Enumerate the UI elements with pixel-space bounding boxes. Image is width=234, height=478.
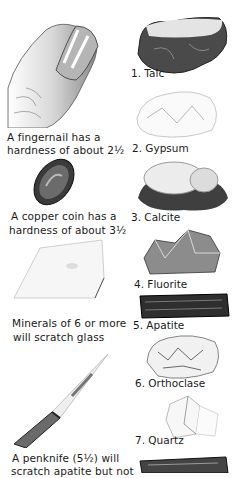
glass-pane-illustration <box>10 238 105 304</box>
penknife-illustration <box>12 352 108 448</box>
calcite-illustration <box>134 158 229 213</box>
glass-caption-line1: Minerals of 6 or more <box>12 317 126 330</box>
penknife-caption-line1: A penknife (5½) will <box>12 452 119 465</box>
orthoclase-illustration <box>143 332 223 380</box>
fingernail-caption-line1: A fingernail has a <box>7 131 100 144</box>
coin-caption-line2: hardness of about 3½ <box>9 224 126 237</box>
mineral-label-gypsum: 2. Gypsum <box>132 142 189 154</box>
mineral-label-apatite: 5. Apatite <box>133 319 184 331</box>
coin-caption-line1: A copper coin has a <box>11 210 117 223</box>
mineral-label-calcite: 3. Calcite <box>131 211 180 223</box>
fluorite-illustration <box>140 228 226 278</box>
mineral-label-orthoclase: 6. Orthoclase <box>135 377 205 389</box>
penknife-caption-line2: scratch apatite but not <box>11 465 134 478</box>
mineral-label-quartz: 7. Quartz <box>135 434 184 446</box>
fingernail-illustration <box>6 18 101 128</box>
topaz-illustration-partial <box>138 455 230 473</box>
glass-caption-line2: will scratch glass <box>13 331 104 344</box>
gypsum-illustration <box>132 88 222 140</box>
apatite-illustration <box>137 292 231 320</box>
copper-coin-illustration <box>26 156 82 208</box>
mineral-label-fluorite: 4. Fluorite <box>134 278 187 290</box>
mineral-label-talc: 1. Talc <box>131 67 164 79</box>
